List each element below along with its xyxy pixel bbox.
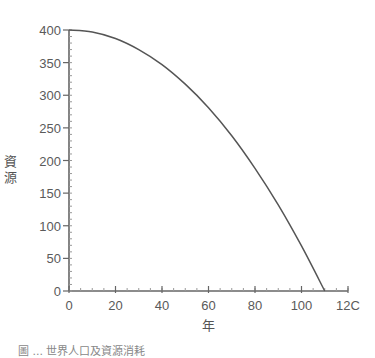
x-tick-label: 40 (155, 298, 169, 313)
svg-text:資: 資 (4, 154, 17, 169)
svg-text:源: 源 (4, 170, 17, 185)
x-tick-label: 12C (336, 298, 360, 313)
y-tick-label: 400 (39, 23, 61, 38)
y-tick-label: 50 (47, 251, 61, 266)
x-axis-title: 年 (202, 318, 215, 333)
y-tick-label: 0 (54, 284, 61, 299)
y-tick-label: 250 (39, 121, 61, 136)
svg-text:年: 年 (202, 318, 215, 333)
y-tick-label: 200 (39, 154, 61, 169)
figure-caption: 圖 ... 世界人口及資源消耗 (18, 342, 145, 358)
y-tick-label: 100 (39, 219, 61, 234)
x-tick-label: 20 (108, 298, 122, 313)
y-tick-label: 300 (39, 88, 61, 103)
y-axis-title: 資源 (4, 154, 17, 185)
x-tick-label: 80 (248, 298, 262, 313)
x-tick-label: 60 (201, 298, 215, 313)
data-series (69, 30, 325, 291)
y-tick-label: 150 (39, 186, 61, 201)
axis-ticks: 02040608010012C050100150200250300350400 (39, 23, 360, 313)
series-line (69, 30, 325, 291)
x-tick-label: 100 (291, 298, 313, 313)
axes (69, 30, 348, 291)
y-tick-label: 350 (39, 56, 61, 71)
x-tick-label: 0 (65, 298, 72, 313)
